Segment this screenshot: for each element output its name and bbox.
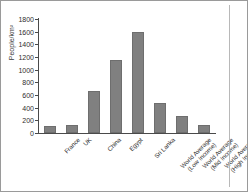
y-axis-tick [35, 108, 39, 109]
y-axis-tick [35, 19, 39, 20]
y-axis-tick-label: 800 [22, 79, 34, 86]
source-divider [229, 5, 230, 187]
x-axis-category-label: Sri Lanka [153, 136, 176, 159]
y-axis-tick-label: 0 [30, 130, 34, 137]
y-axis-tick [35, 133, 39, 134]
chart-figure: People/km² 02004006008001000120014001600… [0, 0, 248, 192]
y-axis-tick-label: 600 [22, 92, 34, 99]
bar [88, 91, 99, 133]
y-axis-tick-label: 1200 [18, 54, 34, 61]
y-axis-tick [35, 32, 39, 33]
source-note: Source: World Development Indicators 200… [239, 187, 246, 192]
y-axis-tick [35, 44, 39, 45]
y-axis-tick-label: 1000 [18, 66, 34, 73]
x-axis-tick-label: Sri Lanka [153, 136, 176, 159]
x-axis-category-label: China [106, 136, 122, 152]
x-axis-category-label: Egypt [128, 136, 144, 152]
x-axis-tick-label: China [106, 136, 122, 152]
x-axis-tick-label: UK [82, 136, 93, 147]
bar [66, 125, 77, 133]
bar [154, 103, 165, 133]
y-axis-tick [35, 82, 39, 83]
y-axis-tick-label: 1800 [18, 16, 34, 23]
x-axis-tick-label: Egypt [128, 136, 144, 152]
y-axis-tick [35, 120, 39, 121]
bar [44, 126, 55, 133]
y-axis-tick-label: 1400 [18, 41, 34, 48]
y-axis-tick-label: 400 [22, 104, 34, 111]
x-axis-category-label: UK [82, 136, 93, 147]
plot-area: 020040060080010001200140016001800FranceU… [39, 19, 215, 133]
y-axis-tick [35, 95, 39, 96]
y-axis-tick-label: 1600 [18, 28, 34, 35]
y-axis-tick [35, 70, 39, 71]
y-axis-tick-label: 200 [22, 117, 34, 124]
bar [110, 60, 121, 133]
bar [176, 116, 187, 133]
x-axis-tick-label: France [63, 136, 82, 155]
y-axis-label: People/km² [8, 7, 15, 79]
y-axis-tick [35, 57, 39, 58]
bar [198, 125, 209, 133]
bar [132, 32, 143, 133]
x-axis-category-label: France [63, 136, 82, 155]
x-axis-line [38, 133, 216, 134]
